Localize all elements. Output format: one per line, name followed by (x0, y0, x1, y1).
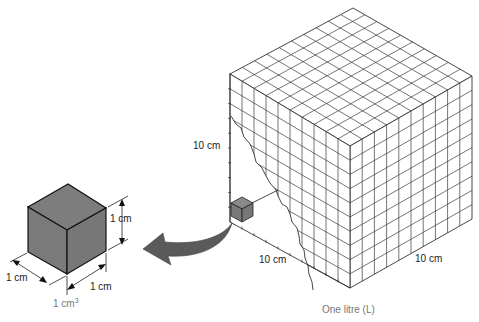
small-cube-height-label: 1 cm (110, 213, 132, 224)
small-cube-depth-label: 1 cm (6, 272, 28, 283)
small-cube-width-label: 1 cm (90, 281, 112, 292)
small-cube-volume-label: 1 cm3 (53, 297, 79, 309)
inner-small-cube (231, 197, 253, 222)
small-cube (28, 184, 106, 274)
large-cube-height-label: 10 cm (193, 140, 220, 151)
large-cube-caption: One litre (L) (322, 304, 375, 315)
large-cube-width-label: 10 cm (415, 253, 442, 264)
curved-arrow (143, 223, 232, 265)
large-cube (228, 8, 472, 290)
litre-cube-diagram: 1 cm 1 cm 1 cm 1 cm3 10 cm 10 cm 10 cm O… (0, 0, 479, 322)
large-cube-depth-label: 10 cm (259, 254, 286, 265)
